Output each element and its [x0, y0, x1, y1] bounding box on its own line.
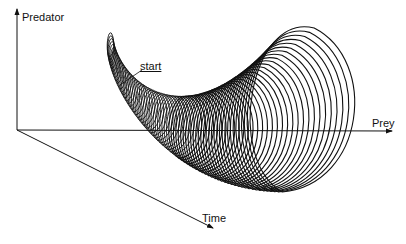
trajectory-loops: [107, 27, 354, 192]
prey-axis-label: Prey: [372, 118, 395, 129]
time-axis-label: Time: [202, 213, 226, 224]
trajectory-plot: [0, 0, 406, 244]
predator-axis-label: Predator: [22, 12, 64, 23]
prey-axis: [17, 130, 392, 131]
start-label: start: [140, 61, 161, 72]
axes: [17, 9, 392, 228]
